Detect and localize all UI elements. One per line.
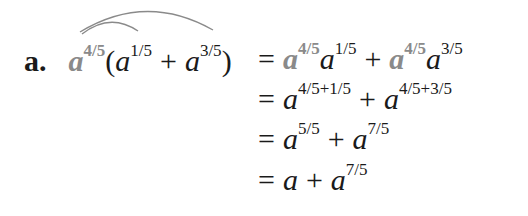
exponent: 4/5+3/5	[399, 79, 452, 98]
base: a	[283, 42, 298, 75]
step-1: =a4/5a1/5+a4/5a3/5	[258, 44, 463, 79]
term1-base: a	[115, 44, 130, 77]
exponent: 4/5	[404, 39, 426, 58]
exponent: 3/5	[441, 39, 463, 58]
exponent: 5/5	[298, 119, 320, 138]
base: a	[353, 122, 368, 155]
outer-base: a	[69, 44, 84, 77]
base: a	[384, 82, 399, 115]
plus-sign: +	[351, 82, 384, 115]
equals-sign: =	[258, 122, 283, 155]
plus-sign: +	[298, 163, 331, 196]
step-4: =a+a7/5	[258, 165, 368, 200]
plus-sign: +	[152, 44, 185, 77]
exponent: 7/5	[368, 119, 390, 138]
plus-sign: +	[320, 122, 353, 155]
problem-label: a.	[24, 44, 47, 77]
step-2: =a4/5+1/5+a4/5+3/5	[258, 84, 452, 119]
exponent: 7/5	[346, 160, 368, 179]
arc-to-term1	[82, 22, 138, 34]
step-3: =a5/5+a7/5	[258, 124, 389, 159]
exponent: 1/5	[335, 39, 357, 58]
base: a	[283, 163, 298, 196]
base: a	[426, 42, 441, 75]
equals-sign: =	[258, 82, 283, 115]
outer-exponent: 4/5	[84, 41, 106, 60]
exponent: 4/5	[298, 39, 320, 58]
open-paren: (	[105, 44, 115, 77]
close-paren: )	[222, 44, 232, 77]
base: a	[331, 163, 346, 196]
term1-exponent: 1/5	[130, 41, 152, 60]
problem-lhs: a. a4/5(a1/5+a3/5)	[24, 44, 232, 78]
arc-to-term2	[80, 11, 213, 32]
base: a	[320, 42, 335, 75]
base: a	[389, 42, 404, 75]
plus-sign: +	[356, 42, 389, 75]
base: a	[283, 82, 298, 115]
equals-sign: =	[258, 163, 283, 196]
equals-sign: =	[258, 42, 283, 75]
base: a	[283, 122, 298, 155]
term2-exponent: 3/5	[200, 41, 222, 60]
term2-base: a	[185, 44, 200, 77]
exponent: 4/5+1/5	[298, 79, 351, 98]
